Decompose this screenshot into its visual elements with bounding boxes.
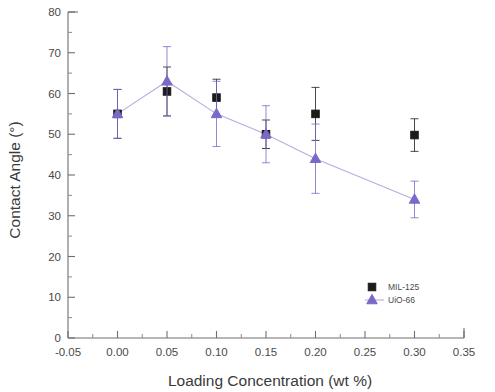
y-tick-label: 10 [48,291,61,303]
legend-label: UiO-66 [388,295,415,305]
x-tick-label: 0.30 [403,346,425,358]
y-tick-label: 0 [55,332,61,344]
y-tick-label: 20 [48,251,61,263]
data-point-marker [312,110,320,118]
x-tick-label: 0.05 [156,346,178,358]
y-tick-label: 30 [48,210,61,222]
y-axis-title: Contact Angle (°) [6,121,23,238]
x-tick-label: 0.10 [205,346,227,358]
plot-background [0,0,495,392]
y-tick-label: 50 [48,128,61,140]
y-tick-label: 70 [48,47,61,59]
x-tick-label: 0.25 [354,346,376,358]
x-tick-label: 0.20 [304,346,326,358]
legend-marker-square [368,283,376,291]
x-tick-label: -0.05 [55,346,81,358]
legend-item[interactable]: MIL-125 [368,282,419,292]
x-tick-label: 0.35 [453,346,475,358]
legend-label: MIL-125 [388,282,419,292]
y-tick-label: 40 [48,169,61,181]
chart-figure: 01020304050607080 -0.050.000.050.100.150… [0,0,495,392]
y-tick-label: 80 [48,6,61,18]
x-axis-title: Loading Concentration (wt %) [168,372,372,389]
contact-angle-scatter-plot: 01020304050607080 -0.050.000.050.100.150… [0,0,495,392]
data-point-marker [411,131,419,139]
legend-item[interactable]: UiO-66 [365,294,415,305]
y-tick-label: 60 [48,88,61,100]
x-tick-label: 0.00 [106,346,128,358]
x-tick-label: 0.15 [255,346,277,358]
